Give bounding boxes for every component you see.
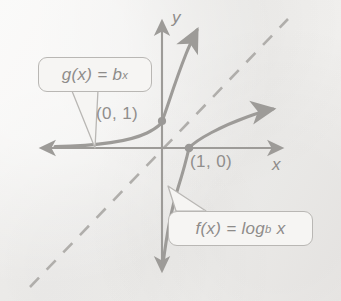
- callout-f-prefix: f(x) = log: [196, 219, 266, 239]
- point-marker-0-1: [158, 117, 166, 125]
- x-axis-label: x: [272, 155, 281, 175]
- exponential-function-callout: g(x) = bx: [38, 57, 152, 92]
- y-axis-label: y: [172, 8, 181, 28]
- graph-canvas: [0, 0, 341, 301]
- callout-f-argument: x: [277, 219, 286, 239]
- point-label-0-1: (0, 1): [96, 104, 138, 124]
- point-label-1-0: (1, 0): [190, 152, 232, 172]
- callout-g-prefix: g(x) = b: [62, 65, 123, 85]
- callout-tail-g: [72, 90, 98, 148]
- math-figure: g(x) = bx f(x) = logb x (0, 1) (1, 0) y …: [0, 0, 341, 301]
- point-marker-1-0: [185, 144, 194, 153]
- logarithmic-function-callout: f(x) = logb x: [168, 211, 313, 246]
- callout-g-exponent: x: [122, 69, 128, 81]
